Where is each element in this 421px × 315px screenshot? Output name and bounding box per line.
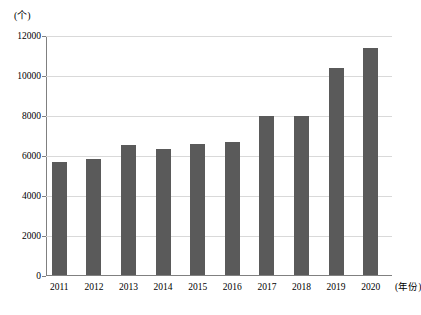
x-axis-tick-label: 2014 [154,282,173,293]
y-axis-tick-label: 4000 [22,191,41,201]
x-axis-tick-label: 2020 [361,282,380,293]
bar [294,116,309,275]
x-axis-tick-label: 2011 [50,282,69,293]
bar-series [46,36,392,276]
x-axis-tick-label: 2013 [119,282,138,293]
bar [156,149,171,275]
bar [329,68,344,275]
x-axis-tick-label: 2018 [292,282,311,293]
y-axis-tick-label: 12000 [17,31,41,41]
bar [190,144,205,275]
y-axis-tick-mark [42,276,46,277]
y-axis-tick-label: 10000 [17,71,41,81]
y-axis-tick-label: 8000 [22,111,41,121]
bar [259,116,274,275]
y-axis-tick-label: 2000 [22,231,41,241]
x-axis-tick-label: 2019 [327,282,346,293]
plot-area: 020004000600080001000012000 201120122013… [46,36,392,276]
x-axis-tick-label: 2015 [188,282,207,293]
x-axis-tick-label: 2012 [84,282,103,293]
bar [86,159,101,275]
y-axis-tick-label: 0 [36,271,41,281]
x-axis-unit-label: (年份) [395,282,421,293]
bar [225,142,240,275]
x-axis-tick-label: 2017 [257,282,276,293]
bar [363,48,378,275]
bar [121,145,136,275]
y-axis-tick-label: 6000 [22,151,41,161]
bar [52,162,67,275]
y-axis-unit-label: (个) [14,10,31,22]
x-axis-tick-label: 2016 [223,282,242,293]
